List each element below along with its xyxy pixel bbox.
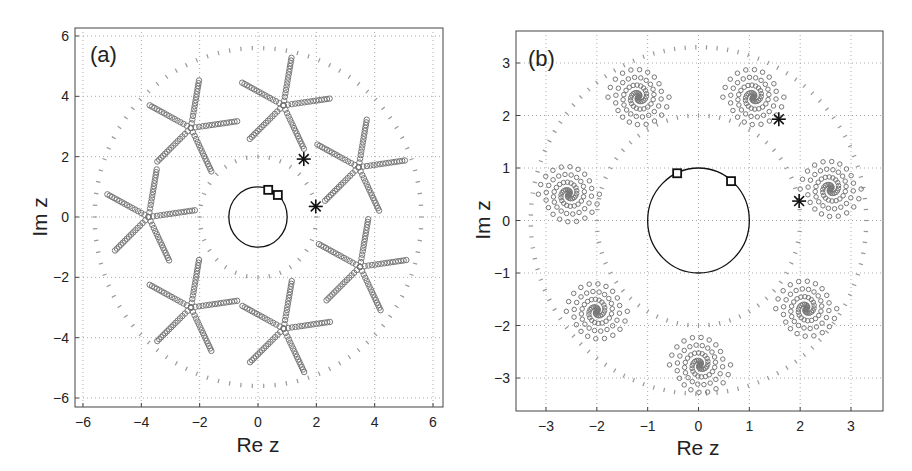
asterisk-marker bbox=[309, 199, 323, 213]
dotted-circle-mark bbox=[861, 253, 865, 254]
panel-b: −3−2−10123−3−2−10123 (b) Re z Im z bbox=[471, 31, 883, 459]
x-tick-label: −6 bbox=[75, 414, 91, 430]
y-tick-label: 0 bbox=[502, 213, 510, 229]
dotted-circle-mark bbox=[229, 381, 230, 385]
panel-a: −6−4−20246−6−4−20246 (a) Re z Im z bbox=[28, 28, 443, 456]
square-marker bbox=[727, 177, 735, 185]
square-marker bbox=[274, 191, 282, 199]
x-axis-label-a: Re z bbox=[236, 433, 279, 456]
y-axis-label-b: Im z bbox=[471, 200, 494, 240]
dotted-circle-mark bbox=[727, 389, 728, 393]
dotted-circle-mark bbox=[531, 248, 535, 249]
y-tick-label: 2 bbox=[61, 149, 69, 165]
x-tick-label: 6 bbox=[429, 414, 437, 430]
dotted-circle-mark bbox=[286, 48, 287, 52]
square-marker bbox=[264, 186, 272, 194]
x-axis-label-b: Re z bbox=[676, 436, 719, 459]
y-tick-label: −1 bbox=[494, 265, 510, 281]
dotted-circle-mark bbox=[674, 47, 675, 51]
panel-tag-a: (a) bbox=[90, 42, 117, 67]
y-tick-label: 0 bbox=[61, 209, 69, 225]
x-tick-label: −1 bbox=[640, 418, 656, 434]
x-tick-label: 0 bbox=[695, 418, 703, 434]
y-tick-label: 6 bbox=[61, 28, 69, 44]
x-tick-label: 2 bbox=[312, 414, 320, 430]
dotted-circle-mark bbox=[286, 381, 287, 385]
y-axis-label-a: Im z bbox=[28, 197, 51, 237]
dotted-circle-mark bbox=[94, 240, 98, 241]
dotted-circle-mark bbox=[863, 198, 867, 199]
asterisk-marker bbox=[297, 152, 311, 166]
dotted-circle-mark bbox=[418, 193, 422, 194]
asterisk-marker bbox=[772, 112, 786, 126]
dotted-circle-mark bbox=[674, 390, 675, 394]
x-tick-label: 4 bbox=[371, 414, 379, 430]
y-tick-label: −6 bbox=[53, 390, 69, 406]
x-tick-label: −2 bbox=[589, 418, 605, 434]
y-tick-label: 3 bbox=[502, 55, 510, 71]
x-tick-label: 2 bbox=[796, 418, 804, 434]
dotted-circle-mark bbox=[246, 274, 247, 278]
y-tick-label: −3 bbox=[494, 370, 510, 386]
panel-tag-b: (b) bbox=[528, 46, 555, 71]
dotted-circle-mark bbox=[313, 228, 317, 229]
dotted-circle-mark bbox=[229, 48, 230, 52]
y-tick-label: 1 bbox=[502, 160, 510, 176]
y-tick-label: −2 bbox=[494, 318, 510, 334]
dotted-circle-mark bbox=[727, 48, 728, 52]
dotted-circle-mark bbox=[531, 193, 535, 194]
y-tick-label: −4 bbox=[53, 330, 69, 346]
x-tick-label: 3 bbox=[847, 418, 855, 434]
dotted-circle-mark bbox=[418, 240, 422, 241]
dotted-circle-mark bbox=[94, 193, 98, 194]
x-tick-label: −3 bbox=[538, 418, 554, 434]
y-tick-label: 2 bbox=[502, 108, 510, 124]
dotted-circle-mark bbox=[199, 205, 203, 206]
asterisk-marker bbox=[792, 194, 806, 208]
dotted-circle-mark bbox=[199, 228, 203, 229]
y-tick-label: −2 bbox=[53, 269, 69, 285]
x-tick-label: 1 bbox=[745, 418, 753, 434]
dotted-circle-mark bbox=[246, 156, 247, 160]
figure: −6−4−20246−6−4−20246 (a) Re z Im z −3−2−… bbox=[0, 0, 912, 471]
x-tick-label: 0 bbox=[254, 414, 262, 430]
dotted-circle-mark bbox=[863, 242, 867, 243]
dotted-circle-mark bbox=[269, 274, 270, 278]
square-marker bbox=[673, 169, 681, 177]
y-tick-label: 4 bbox=[61, 88, 69, 104]
x-tick-label: −4 bbox=[133, 414, 149, 430]
x-tick-label: −2 bbox=[192, 414, 208, 430]
dotted-circle-mark bbox=[269, 156, 270, 160]
